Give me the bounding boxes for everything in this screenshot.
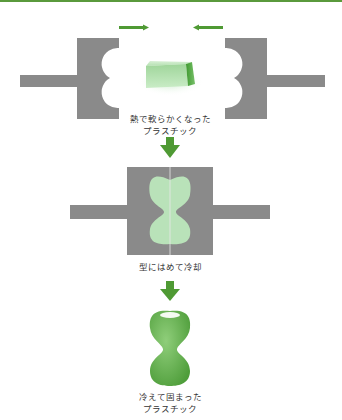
step-label-cooled: 冷えて固まった プラスチック bbox=[90, 391, 250, 415]
label-line: 型にはめて冷却 bbox=[90, 261, 250, 273]
arrow-down-icon bbox=[160, 281, 180, 301]
right-mold-half bbox=[225, 38, 325, 119]
label-line: プラスチック bbox=[90, 125, 250, 137]
arrow-left-icon bbox=[193, 25, 223, 31]
soft-plastic-block bbox=[136, 61, 204, 96]
label-line: 熱で軟らかくなった bbox=[90, 113, 250, 125]
solid-plastic-shape bbox=[150, 311, 190, 386]
label-line: 冷えて固まった bbox=[90, 391, 250, 403]
step-label-heated: 熱で軟らかくなった プラスチック bbox=[90, 113, 250, 137]
label-line: プラスチック bbox=[90, 403, 250, 415]
step-label-molding: 型にはめて冷却 bbox=[90, 261, 250, 273]
arrow-down-icon bbox=[160, 137, 180, 158]
closed-mold bbox=[70, 167, 270, 255]
arrow-right-icon bbox=[119, 25, 149, 31]
left-mold-half bbox=[20, 38, 119, 119]
molding-diagram bbox=[0, 0, 342, 420]
